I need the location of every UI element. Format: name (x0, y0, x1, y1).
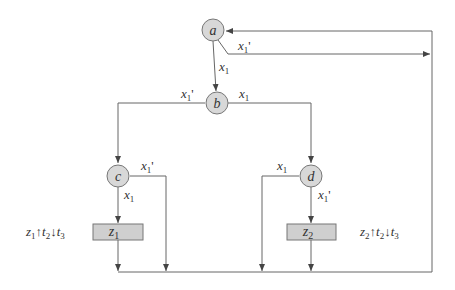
node-c: c (107, 165, 129, 187)
node-d: d (300, 165, 322, 187)
label-c-true: x1 (123, 187, 134, 204)
edge-b-true (228, 103, 311, 163)
node-d-label: d (308, 169, 316, 184)
box-z1: z1 (93, 224, 143, 241)
node-c-label: c (115, 169, 122, 184)
annotation-z2: z2↑t2↓t3 (359, 224, 399, 241)
edge-b-false (118, 103, 205, 163)
node-b: b (206, 92, 228, 114)
label-d-true: x1 (276, 158, 287, 175)
annotation-z1: z1↑t2↓t3 (25, 224, 65, 241)
node-a: a (202, 19, 224, 41)
label-a-false: x1' (237, 38, 251, 55)
box-z1-sub: 1 (114, 230, 119, 241)
flowchart-diagram: a b c d z1 z2 x1' x1 x1' x1 x1' x1 x1 x (0, 0, 455, 290)
label-d-false: x1' (317, 187, 331, 204)
edge-a-true (213, 41, 216, 91)
box-z2-sub: 2 (308, 230, 313, 241)
label-b-false: x1' (180, 86, 194, 103)
label-c-false: x1' (140, 158, 154, 175)
node-a-label: a (210, 23, 217, 38)
label-a-true: x1 (218, 59, 229, 76)
label-b-true: x1 (238, 86, 249, 103)
box-z2: z2 (287, 224, 336, 241)
node-b-label: b (214, 96, 221, 111)
